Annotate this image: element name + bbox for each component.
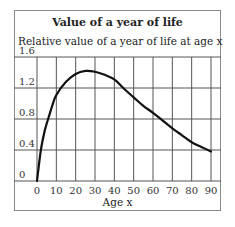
x-tick-label: 20 — [69, 185, 82, 196]
y-tick-label: 0.8 — [19, 107, 35, 118]
y-tick-label: 1.2 — [19, 76, 35, 87]
x-tick-label: 90 — [205, 185, 218, 196]
x-tick-label: 40 — [108, 185, 121, 196]
x-tick-label: 30 — [89, 185, 102, 196]
x-tick-label: 70 — [166, 185, 179, 196]
y-tick-label: 1.6 — [19, 45, 35, 56]
x-tick-label: 0 — [34, 185, 40, 196]
y-tick-label: 0 — [19, 169, 25, 180]
x-tick-label: 60 — [147, 185, 160, 196]
plot-area: 00.40.81.21.60102030405060708090 — [0, 0, 235, 227]
x-tick-label: 10 — [50, 185, 63, 196]
data-curve — [37, 71, 211, 181]
x-tick-label: 80 — [185, 185, 198, 196]
y-tick-label: 0.4 — [19, 138, 35, 149]
x-tick-label: 50 — [127, 185, 140, 196]
